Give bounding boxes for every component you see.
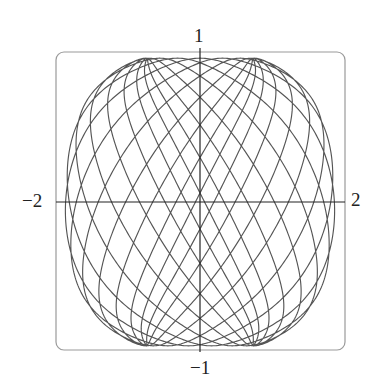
y-min-label: −1 bbox=[190, 358, 210, 377]
x-max-label: 2 bbox=[351, 190, 361, 209]
y-max-label: 1 bbox=[194, 26, 204, 45]
x-min-label: −2 bbox=[22, 191, 42, 210]
parametric-plot bbox=[0, 0, 385, 389]
